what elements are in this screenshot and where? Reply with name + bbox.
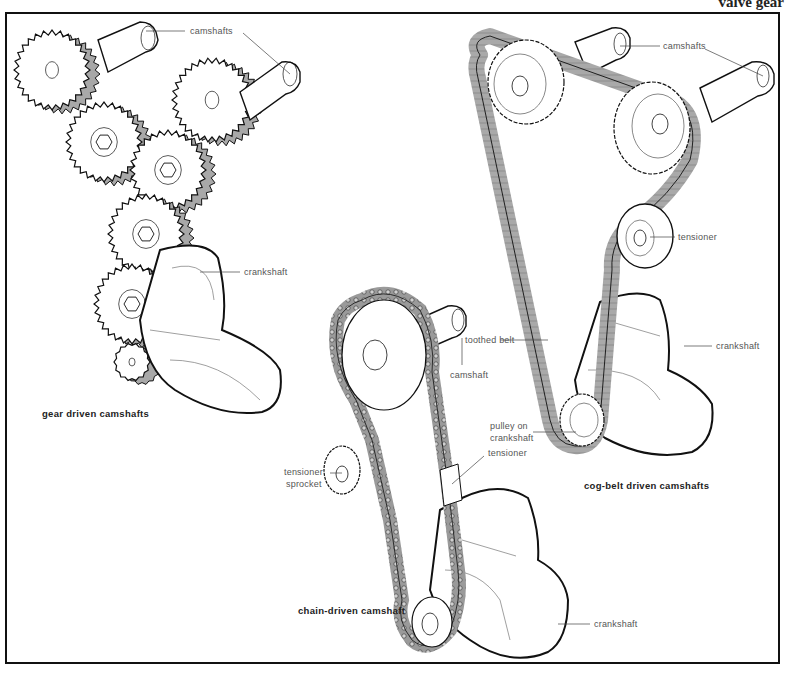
gear-caption: gear driven camshafts [42, 408, 149, 419]
belt-label-pulley-1: pulley on [490, 420, 528, 432]
hex-nut-icon [124, 297, 140, 311]
belt-cam-pulley-1 [488, 40, 564, 124]
gear-label-camshafts: camshafts [190, 25, 233, 37]
chain-tensioner-block [440, 464, 462, 506]
gear-camshaft-1 [98, 22, 158, 72]
belt-label-tensioner: tensioner [678, 231, 717, 243]
belt-crank-pulley [560, 394, 604, 446]
belt-camshaft-2 [700, 62, 774, 122]
belt-label-camshafts: camshafts [663, 40, 706, 52]
chain-label-crankshaft: crankshaft [594, 618, 638, 630]
chain-tensioner-sprocket [324, 446, 360, 494]
belt-caption: cog-belt driven camshafts [584, 480, 709, 491]
hex-nut-icon [96, 135, 112, 149]
hex-nut-icon [138, 227, 154, 241]
chain-label-tensioner-sprocket-2: sprocket [286, 478, 322, 490]
belt-tensioner-pulley [617, 204, 673, 268]
illustration-canvas [0, 0, 792, 682]
gear-camshaft-2 [240, 62, 300, 120]
belt-label-crankshaft: crankshaft [716, 340, 760, 352]
chain-cam-sprocket [342, 300, 426, 410]
chain-label-tensioner-sprocket-1: tensioner [284, 466, 323, 478]
gear-label-crankshaft: crankshaft [244, 266, 288, 278]
chain-label-camshaft: camshaft [450, 369, 488, 381]
belt-cam-pulley-2 [614, 82, 690, 174]
chain-caption: chain-driven camshaft [298, 605, 405, 616]
belt-label-pulley-2: crankshaft [490, 432, 534, 444]
hex-nut-icon [160, 163, 176, 177]
chain-label-tensioner: tensioner [488, 447, 527, 459]
belt-label-toothed-belt: toothed belt [465, 334, 514, 346]
chain-crank-sprocket [412, 597, 452, 647]
